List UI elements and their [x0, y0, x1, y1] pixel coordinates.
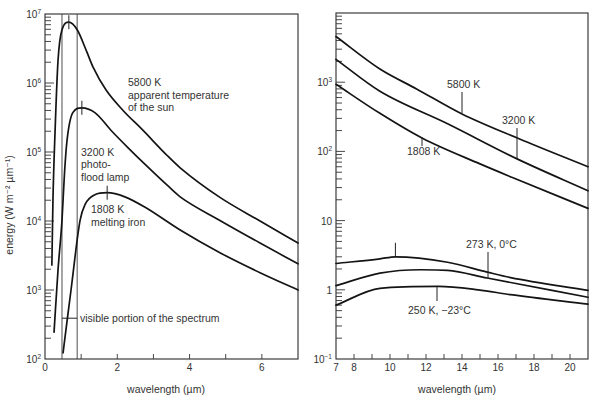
y-tick-label: 10−1 — [313, 353, 332, 365]
blackbody-spectrum-figure: 1021031041051061070246 energy (W m⁻² µm⁻… — [0, 0, 600, 405]
label-273k: 273 K, 0°C — [466, 238, 517, 250]
label-1808k-title: 1808 K — [91, 203, 124, 215]
label-5800k-desc-1: apparent temperature — [128, 89, 229, 101]
y-tick-label: 104 — [26, 215, 41, 227]
x-tick-label: 14 — [456, 362, 468, 373]
right-axis-ticks: 10−111010210378101214161820 — [313, 16, 576, 373]
y-tick-label: 102 — [317, 145, 332, 157]
right-curves — [336, 37, 588, 306]
y-tick-label: 103 — [26, 284, 41, 296]
x-tick-label: 10 — [384, 362, 396, 373]
y-tick-label: 103 — [317, 76, 332, 88]
x-tick-label: 18 — [528, 362, 540, 373]
label-5800k-left: 5800 K apparent temperature of the sun — [128, 76, 229, 113]
x-tick-label: 20 — [564, 362, 576, 373]
y-tick-label: 107 — [26, 8, 41, 20]
x-tick-label: 8 — [351, 362, 357, 373]
y-tick-label: 10 — [321, 216, 333, 227]
label-5800k-desc-2: of the sun — [128, 101, 174, 113]
label-5800k-title: 5800 K — [128, 76, 161, 88]
y-tick-label: 1 — [326, 285, 332, 296]
label-3200k-desc-1: photo- — [81, 158, 111, 170]
label-1808k-left: 1808 K melting iron — [91, 203, 145, 228]
x-tick-label: 4 — [187, 362, 193, 373]
y-tick-label: 106 — [26, 77, 41, 89]
right-panel: 10−111010210378101214161820 wavelength (… — [313, 13, 588, 395]
left-x-axis-label: wavelength (µm) — [126, 383, 205, 395]
left-y-axis-label: energy (W m⁻² µm⁻¹) — [3, 155, 15, 254]
right-x-axis-label: wavelength (µm) — [417, 383, 496, 395]
y-tick-label: 102 — [26, 353, 41, 365]
label-1808k-desc: melting iron — [91, 216, 145, 228]
left-plot-frame — [45, 14, 298, 359]
x-tick-label: 0 — [42, 362, 48, 373]
x-tick-label: 6 — [259, 362, 265, 373]
curve-5800-k — [52, 22, 298, 265]
x-tick-label: 2 — [115, 362, 121, 373]
left-panel: 1021031041051061070246 energy (W m⁻² µm⁻… — [3, 8, 298, 395]
label-3200k-desc-2: flood lamp — [81, 171, 130, 183]
left-curves — [52, 22, 298, 353]
x-tick-label: 7 — [333, 362, 339, 373]
y-tick-label: 105 — [26, 146, 41, 158]
label-250k: 250 K, −23°C — [408, 304, 471, 316]
visible-band-label: visible portion of the spectrum — [80, 312, 220, 324]
x-tick-label: 16 — [492, 362, 504, 373]
label-3200k-right: 3200 K — [502, 114, 535, 126]
curve-unlabeled — [336, 257, 588, 291]
label-3200k-title: 3200 K — [81, 146, 114, 158]
curve-273-k-0-c — [336, 270, 588, 298]
label-3200k-left: 3200 K photo- flood lamp — [81, 146, 130, 183]
x-tick-label: 12 — [420, 362, 432, 373]
label-1808k-right: 1808 K — [407, 145, 440, 157]
label-5800k-right: 5800 K — [447, 78, 480, 90]
